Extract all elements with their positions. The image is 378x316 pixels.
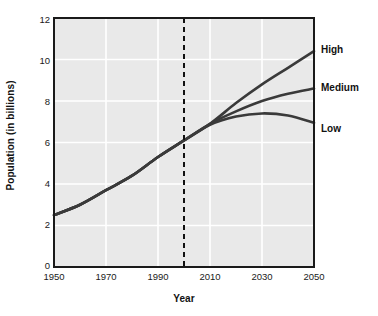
plot-area <box>0 0 378 316</box>
population-projection-chart: Population (in billions) 12 10 8 6 4 2 0… <box>0 0 378 316</box>
